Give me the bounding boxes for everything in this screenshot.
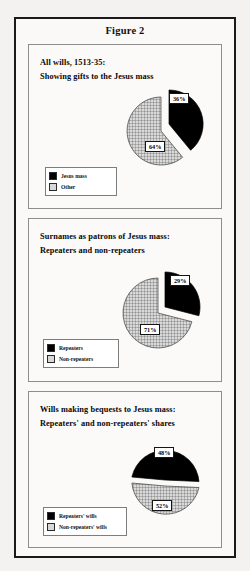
panel-3-heading-line2: Repeaters' and non-repeaters' shares bbox=[40, 417, 176, 431]
panel-2-heading-line2: Repeaters and non-repeaters bbox=[40, 244, 170, 258]
legend-1-item-other: Other bbox=[49, 182, 113, 192]
panel-1-heading-line1: All wills, 1513-35: bbox=[40, 58, 105, 67]
legend-1-label-other: Other bbox=[61, 183, 75, 191]
pie-3-label-repeaters-wills: 48% bbox=[154, 447, 174, 458]
legend-swatch-black-icon bbox=[47, 512, 55, 520]
pie-3-label-non-repeaters-wills: 52% bbox=[152, 500, 172, 511]
pie-chart-2: 29% 71% bbox=[114, 261, 217, 357]
legend-1-label-jesus-mass: Jesus mass bbox=[61, 172, 87, 180]
pie-chart-2-svg bbox=[114, 261, 217, 357]
legend-2-item-repeaters: Repeaters bbox=[47, 343, 115, 353]
legend-2-label-non-repeaters: Non-repeaters bbox=[59, 355, 93, 363]
pie-1-label-other: 64% bbox=[145, 141, 165, 152]
panel-2-heading-line1: Surnames as patrons of Jesus mass: bbox=[40, 232, 170, 241]
legend-3: Repeaters' wills Non-repeaters' wills bbox=[43, 507, 127, 536]
legend-3-label-non-repeaters-wills: Non-repeaters' wills bbox=[59, 523, 107, 531]
legend-swatch-hatch-icon bbox=[47, 523, 55, 531]
legend-2-item-non-repeaters: Non-repeaters bbox=[47, 354, 115, 364]
legend-2-label-repeaters: Repeaters bbox=[59, 344, 83, 352]
panel-3-heading: Wills making bequests to Jesus mass: Rep… bbox=[40, 403, 176, 431]
legend-swatch-hatch-icon bbox=[47, 355, 55, 363]
legend-3-item-non-repeaters-wills: Non-repeaters' wills bbox=[47, 522, 123, 532]
pie-chart-1: 36% 64% bbox=[117, 81, 217, 173]
chart-panel-2: Surnames as patrons of Jesus mass: Repea… bbox=[28, 218, 222, 382]
chart-panel-1: All wills, 1513-35: Showing gifts to the… bbox=[28, 44, 222, 209]
legend-3-label-repeaters-wills: Repeaters' wills bbox=[59, 512, 97, 520]
pie-chart-3: 48% 52% bbox=[121, 436, 217, 530]
legend-1-item-jesus-mass: Jesus mass bbox=[49, 171, 113, 181]
legend-swatch-black-icon bbox=[49, 172, 57, 180]
legend-3-item-repeaters-wills: Repeaters' wills bbox=[47, 511, 123, 521]
panel-3-heading-line1: Wills making bequests to Jesus mass: bbox=[40, 405, 176, 414]
pie-2-label-repeaters: 29% bbox=[170, 275, 190, 286]
legend-swatch-black-icon bbox=[47, 344, 55, 352]
figure-title: Figure 2 bbox=[16, 25, 234, 36]
legend-swatch-hatch-icon bbox=[49, 183, 57, 191]
legend-1: Jesus mass Other bbox=[45, 167, 117, 196]
pie-2-label-non-repeaters: 71% bbox=[140, 324, 160, 335]
legend-2: Repeaters Non-repeaters bbox=[43, 339, 119, 368]
pie-chart-1-svg bbox=[117, 81, 217, 173]
figure-frame: Figure 2 All wills, 1513-35: Showing gif… bbox=[14, 17, 236, 558]
panel-2-heading: Surnames as patrons of Jesus mass: Repea… bbox=[40, 230, 170, 258]
pie-1-label-jesus-mass: 36% bbox=[169, 93, 189, 104]
panel-1-heading: All wills, 1513-35: Showing gifts to the… bbox=[40, 56, 154, 84]
chart-panel-3: Wills making bequests to Jesus mass: Rep… bbox=[28, 391, 222, 548]
